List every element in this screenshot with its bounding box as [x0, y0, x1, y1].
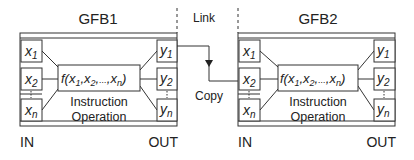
gfb1-input-x1: x1	[21, 40, 42, 62]
gfb1-in-label: IN	[20, 134, 34, 150]
gfb2-title: GFB2	[298, 10, 337, 27]
gfb2-function-box: f(x1,x2,...,xn)	[278, 65, 358, 91]
gfb1-output-y1: y1	[157, 40, 177, 62]
gfb1-input-wires	[42, 51, 58, 110]
gfb1-out-label: OUT	[148, 134, 178, 150]
gfb1-title: GFB1	[78, 10, 117, 27]
gfb1-input-x2: x2	[21, 68, 42, 90]
gfb1-caption-line2: Operation	[72, 110, 127, 124]
gfb2-output-y2: y2	[374, 68, 395, 90]
gfb1-input-xn: xn	[21, 99, 42, 121]
diagram-canvas: GFB1 x1 x2 xn	[0, 0, 414, 160]
gfb2-output-wires	[358, 51, 374, 110]
gfb1-caption-line1: Instruction	[70, 95, 128, 109]
link-label: Link	[193, 11, 216, 25]
gfb2-caption-line2: Operation	[291, 110, 346, 124]
gfb1-output-yn: yn	[157, 99, 177, 121]
gfb2-block: GFB2 x1 x2 xn f(x1,x2,.	[238, 10, 396, 150]
gfb1-output-y2: y2	[157, 68, 177, 90]
gfb2-in-label: IN	[238, 134, 252, 150]
gfb2-caption-line1: Instruction	[289, 95, 347, 109]
gfb2-output-y1: y1	[374, 40, 395, 62]
link-connection: Link Copy	[177, 8, 238, 103]
gfb1-block: GFB1 x1 x2 xn	[20, 10, 178, 150]
copy-label: Copy	[195, 89, 223, 103]
gfb1-output-wires	[140, 51, 157, 110]
arrow-down-icon	[205, 60, 213, 67]
gfb2-input-xn: xn	[239, 99, 260, 121]
gfb2-out-label: OUT	[366, 134, 396, 150]
gfb2-input-wires	[260, 51, 278, 110]
gfb2-output-yn: yn	[374, 99, 395, 121]
gfb2-input-x2: x2	[239, 68, 260, 90]
gfb2-input-x1: x1	[239, 40, 260, 62]
gfb1-function-box: f(x1,x2,...,xn)	[58, 65, 140, 91]
